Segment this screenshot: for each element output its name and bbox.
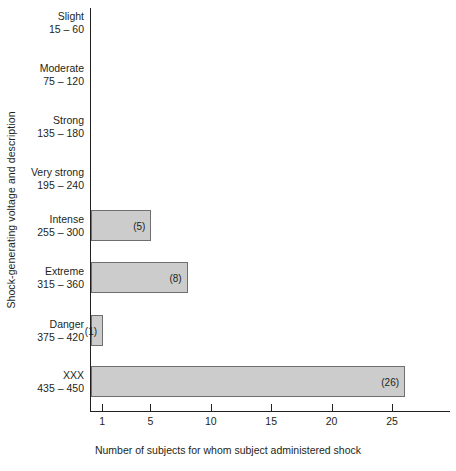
bar-xxx[interactable]: (26) — [91, 366, 405, 397]
category-label-xxx: XXX 435 – 450 — [0, 369, 84, 394]
x-axis-tick — [332, 404, 333, 412]
category-label-intense: Intense 255 – 300 — [0, 213, 84, 238]
category-row-intense: Intense 255 – 300 (5) — [0, 209, 456, 245]
x-axis-tick — [392, 404, 393, 412]
bar-extreme[interactable]: (8) — [91, 262, 188, 293]
x-axis-tick — [150, 404, 151, 412]
x-axis-tick-label: 20 — [326, 415, 338, 427]
category-row-danger: Danger 375 – 420 (1) — [0, 314, 456, 350]
bar-intense[interactable]: (5) — [91, 210, 151, 241]
bar-value-danger: (1) — [85, 325, 97, 336]
category-row-slight: Slight 15 – 60 — [0, 10, 456, 46]
category-label-extreme: Extreme 315 – 360 — [0, 265, 84, 290]
bar-danger[interactable]: (1) — [91, 315, 103, 346]
x-axis-title: Number of subjects for whom subject admi… — [0, 444, 456, 456]
x-axis-tick — [211, 404, 212, 412]
bar-chart: Shock-generating voltage and description… — [0, 0, 456, 471]
category-label-slight: Slight 15 – 60 — [0, 10, 84, 35]
x-axis-tick-label: 1 — [99, 415, 105, 427]
x-axis-line — [90, 411, 450, 412]
category-label-danger: Danger 375 – 420 — [0, 318, 84, 343]
bar-value-intense: (5) — [133, 220, 145, 231]
x-axis-tick — [271, 404, 272, 412]
category-row-strong: Strong 135 – 180 — [0, 114, 456, 150]
category-label-moderate: Moderate 75 – 120 — [0, 62, 84, 87]
category-label-strong: Strong 135 – 180 — [0, 114, 84, 139]
bar-value-xxx: (26) — [381, 376, 399, 387]
category-label-very-strong: Very strong 195 – 240 — [0, 166, 84, 191]
x-axis-tick-label: 5 — [147, 415, 153, 427]
x-axis-tick-label: 25 — [386, 415, 398, 427]
category-row-very-strong: Very strong 195 – 240 — [0, 166, 456, 202]
x-axis-tick — [102, 404, 103, 412]
x-axis-tick-label: 10 — [205, 415, 217, 427]
category-row-moderate: Moderate 75 – 120 — [0, 62, 456, 98]
bar-value-extreme: (8) — [169, 272, 181, 283]
category-row-xxx: XXX 435 – 450 (26) — [0, 365, 456, 401]
category-row-extreme: Extreme 315 – 360 (8) — [0, 261, 456, 297]
x-axis-tick-label: 15 — [265, 415, 277, 427]
